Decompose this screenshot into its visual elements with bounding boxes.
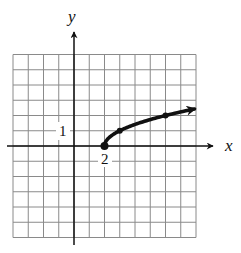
x-tick-label-2: 2 (101, 151, 109, 167)
data-point (163, 113, 169, 119)
data-point (101, 142, 109, 150)
data-point (117, 128, 123, 134)
graph: x y 1 2 (0, 0, 241, 253)
x-axis-label: x (224, 136, 233, 155)
y-tick-label-1: 1 (59, 123, 67, 139)
y-axis-label: y (66, 7, 76, 26)
